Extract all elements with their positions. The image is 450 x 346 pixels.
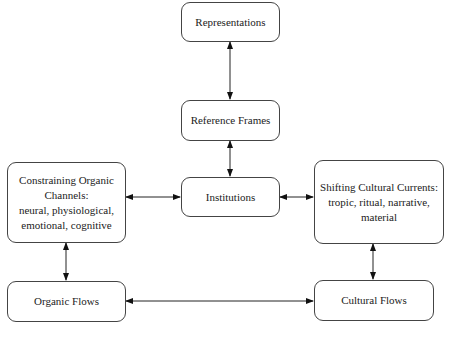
node-label-line: Channels:	[45, 188, 89, 203]
node-cultural-flows: Cultural Flows	[314, 280, 434, 321]
node-label-line: neural, physiological,	[19, 203, 114, 218]
node-label: Organic Flows	[34, 294, 99, 309]
node-institutions: Institutions	[181, 177, 280, 217]
node-reference-frames: Reference Frames	[181, 100, 280, 141]
node-label-line: emotional, cognitive	[21, 218, 111, 233]
node-label: Institutions	[206, 190, 256, 205]
node-label-line: Shifting Cultural Currents:	[320, 180, 438, 195]
node-label: Reference Frames	[191, 113, 271, 128]
node-constraining-organic-channels: Constraining Organic Channels: neural, p…	[7, 162, 126, 243]
node-representations: Representations	[181, 2, 280, 42]
node-label-line: tropic, ritual, narrative,	[328, 195, 430, 210]
node-label: Representations	[195, 15, 265, 30]
node-organic-flows: Organic Flows	[7, 281, 126, 322]
node-label: Cultural Flows	[341, 293, 407, 308]
node-label-line: material	[361, 210, 397, 225]
node-label-line: Constraining Organic	[19, 173, 114, 188]
node-shifting-cultural-currents: Shifting Cultural Currents: tropic, ritu…	[314, 160, 444, 244]
